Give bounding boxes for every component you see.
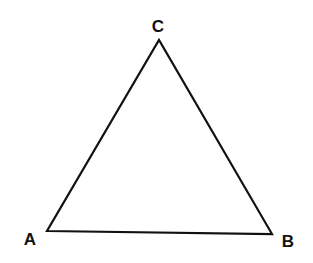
vertex-label-b: B [282, 232, 294, 251]
vertex-label-c: C [152, 17, 164, 36]
triangle-abc [47, 40, 272, 234]
triangle-diagram: A B C [0, 0, 313, 263]
vertex-label-a: A [24, 230, 36, 249]
